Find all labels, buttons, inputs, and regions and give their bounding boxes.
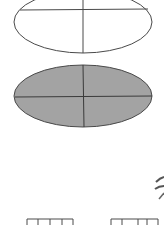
filled-ellipse [14, 65, 152, 127]
curve-fragment [155, 177, 164, 199]
comb-bracket-left [27, 219, 73, 225]
outline-ellipse [14, 0, 152, 53]
horizontal-axis-line [20, 9, 148, 10]
diagram-canvas [0, 0, 164, 225]
comb-bracket-right [111, 219, 158, 225]
